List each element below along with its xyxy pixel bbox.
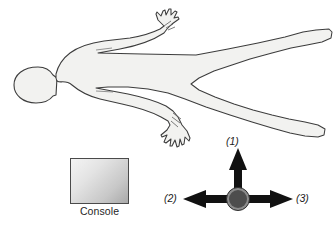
arrow-right-3 xyxy=(247,190,293,208)
diagram-canvas: Console (1) (2) (3) xyxy=(0,0,335,226)
console-box[interactable] xyxy=(70,158,129,204)
torso-limbs-shape xyxy=(56,9,332,147)
pivot-point xyxy=(227,188,250,211)
arrow-label-2: (2) xyxy=(164,192,177,204)
head-shape xyxy=(14,67,57,103)
arrow-up-1 xyxy=(229,148,247,193)
arrow-label-1: (1) xyxy=(226,135,239,147)
human-body-outline xyxy=(14,9,332,147)
console-label: Console xyxy=(70,205,129,218)
arrow-label-3: (3) xyxy=(296,192,309,204)
direction-arrows-group xyxy=(183,148,293,211)
arrow-left-2 xyxy=(183,190,229,208)
